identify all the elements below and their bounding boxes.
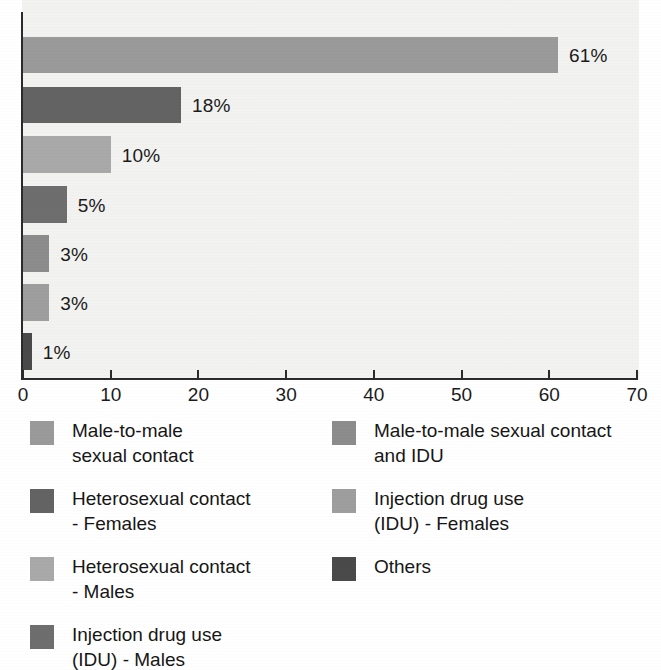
bar-value-label: 3% xyxy=(60,245,88,264)
legend-swatch-icon xyxy=(30,489,54,513)
bar-male-to-male-sexual-contact xyxy=(23,37,558,73)
x-axis-tick-label: 30 xyxy=(276,385,297,405)
legend-item-label: Injection drug use (IDU) - Females xyxy=(374,486,524,536)
bar-heterosexual-contact-males xyxy=(23,136,111,173)
bar-value-label: 61% xyxy=(569,46,608,65)
x-axis-tick-mark xyxy=(285,370,287,379)
x-axis-tick-mark xyxy=(197,370,199,379)
bar-chart-figure: 61% 18% 10% 5% 3% 3% 1% 010203040506070 … xyxy=(0,0,661,670)
bar-injection-drug-use-females xyxy=(23,284,49,321)
legend-swatch-icon xyxy=(30,421,54,445)
y-axis-line xyxy=(21,12,23,379)
bar-value-label: 5% xyxy=(78,196,106,215)
legend-item-label: Heterosexual contact - Females xyxy=(72,486,251,536)
legend-item[interactable]: Heterosexual contact - Females xyxy=(30,486,251,536)
legend-swatch-icon xyxy=(332,489,356,513)
bar-heterosexual-contact-females xyxy=(23,87,181,123)
bar-value-label: 10% xyxy=(122,146,161,165)
x-axis-tick-label: 20 xyxy=(188,385,209,405)
legend-swatch-icon xyxy=(332,557,356,581)
x-axis-tick-label: 0 xyxy=(18,385,29,405)
legend-item[interactable]: Male-to-male sexual contact xyxy=(30,418,193,468)
legend-item-label: Injection drug use (IDU) - Males xyxy=(72,622,222,670)
x-axis-tick-mark xyxy=(373,370,375,379)
legend-swatch-icon xyxy=(332,421,356,445)
x-axis-tick-label: 60 xyxy=(539,385,560,405)
bar-value-label: 3% xyxy=(60,294,88,313)
legend-item-label: Others xyxy=(374,554,431,579)
legend-swatch-icon xyxy=(30,557,54,581)
bar-others xyxy=(23,333,32,370)
x-axis-tick-label: 10 xyxy=(100,385,121,405)
legend-item-label: Male-to-male sexual contact and IDU xyxy=(374,418,612,468)
x-axis-line xyxy=(21,378,638,380)
legend-item[interactable]: Injection drug use (IDU) - Males xyxy=(30,622,222,670)
bar-value-label: 1% xyxy=(43,343,71,362)
legend-item[interactable]: Injection drug use (IDU) - Females xyxy=(332,486,524,536)
legend-item[interactable]: Heterosexual contact - Males xyxy=(30,554,251,604)
legend-swatch-icon xyxy=(30,625,54,649)
x-axis-tick-mark xyxy=(22,370,24,379)
bars-layer: 61% 18% 10% 5% 3% 3% 1% xyxy=(0,0,661,380)
x-axis-tick-mark xyxy=(548,370,550,379)
chart-legend: Male-to-male sexual contactHeterosexual … xyxy=(0,418,661,670)
x-axis-tick-label: 70 xyxy=(626,385,647,405)
x-axis-tick-label: 40 xyxy=(363,385,384,405)
x-axis-tick-mark xyxy=(110,370,112,379)
legend-item-label: Heterosexual contact - Males xyxy=(72,554,251,604)
legend-item[interactable]: Male-to-male sexual contact and IDU xyxy=(332,418,612,468)
x-axis-tick-label: 50 xyxy=(451,385,472,405)
bar-male-to-male-sexual-contact-and-idu xyxy=(23,235,49,272)
x-axis-tick-mark xyxy=(636,370,638,379)
legend-item-label: Male-to-male sexual contact xyxy=(72,418,193,468)
bar-value-label: 18% xyxy=(192,96,231,115)
x-axis-tick-mark xyxy=(461,370,463,379)
bar-injection-drug-use-males xyxy=(23,186,67,223)
legend-item[interactable]: Others xyxy=(332,554,431,581)
